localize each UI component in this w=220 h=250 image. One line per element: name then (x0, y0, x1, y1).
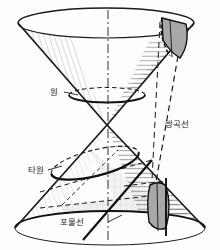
label-ellipse: 타원 (28, 166, 44, 175)
conic-sections-figure: 원 쌍곡선 타원 포물선 (0, 0, 220, 250)
parabola-label-leader (108, 215, 122, 222)
lower-cone-hatching (15, 125, 205, 243)
lower-cone (15, 125, 205, 245)
bottom-rim-back (15, 228, 205, 245)
label-parabola: 포물선 (60, 218, 83, 227)
circle-section-front (69, 95, 145, 103)
label-hyperbola: 쌍곡선 (165, 120, 188, 129)
label-circle: 원 (50, 88, 58, 97)
